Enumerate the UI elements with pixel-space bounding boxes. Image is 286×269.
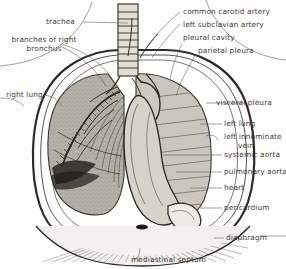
- label-common-carotid-artery: common carotid artery: [183, 8, 270, 17]
- label-parietal-pleura: parietal pleura: [198, 47, 254, 56]
- label-diaphragm: diaphragm: [226, 234, 267, 243]
- label-visceral-pleura: visceral pleura: [216, 99, 272, 108]
- label-left-innominate-vein-line2: vein: [224, 142, 254, 151]
- label-left-innominate-vein: left innominate vein: [224, 133, 282, 150]
- label-left-lung: left lung: [224, 120, 255, 129]
- label-pleural-cavity: pleural cavity: [183, 34, 235, 43]
- label-systemic-aorta: systemic aorta: [224, 151, 280, 160]
- mediastinal-septum-attachment: [136, 225, 148, 230]
- label-left-innominate-vein-line1: left innominate: [224, 132, 282, 141]
- label-trachea: trachea: [46, 18, 75, 27]
- anatomical-figure-thoracic-cavity: trachea branches of right bronchus right…: [0, 0, 286, 269]
- label-mediastinal-septum: mediastinal septum: [131, 256, 206, 265]
- label-right-lung: right lung: [6, 91, 43, 100]
- label-heart: heart: [224, 184, 244, 193]
- right-lung: [48, 74, 126, 215]
- leader-left-subclavian: [152, 24, 180, 58]
- label-pericardium: pericardium: [224, 204, 270, 213]
- label-left-subclavian-artery: left subclavian artery: [183, 21, 264, 30]
- label-branches-of-right-bronchus: branches of right bronchus: [2, 36, 86, 53]
- label-branches-of-right-bronchus-line2: bronchus: [27, 44, 62, 53]
- label-pulmonary-aorta: pulmonary aorta: [224, 168, 286, 177]
